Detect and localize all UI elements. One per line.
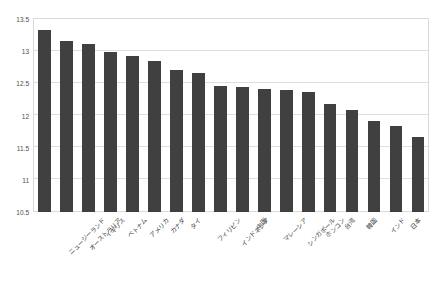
- x-axis-tick-label: カナダ: [169, 217, 187, 235]
- x-axis-tick-label: 日本: [409, 217, 422, 230]
- x-axis-labels: ニュージーランドオーストラリアイギリスベトナムアメリカカナダタイフィリピンインド…: [0, 0, 437, 281]
- x-axis-tick-label: ベトナム: [126, 217, 148, 239]
- x-axis-tick-label: タイ: [189, 217, 202, 230]
- x-axis-tick-label: アメリカ: [148, 217, 170, 239]
- x-axis-tick-label: 韓国: [365, 217, 378, 230]
- x-axis-tick-label: マレーシア: [282, 217, 308, 243]
- x-axis-tick-label: 台湾: [343, 217, 356, 230]
- bar-chart: 13.51312.51211.51110.5 ニュージーランドオーストラリアイギ…: [0, 0, 437, 281]
- x-axis-tick-label: インド: [388, 217, 406, 235]
- x-axis-tick-label: フィリピン: [216, 217, 242, 243]
